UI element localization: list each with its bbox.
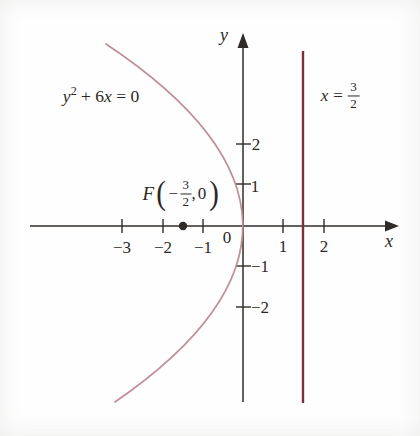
focus-fraction-denominator: 2 (182, 195, 189, 210)
x-tick-label-1: 1 (279, 238, 288, 255)
x-axis-label: x (385, 232, 393, 250)
focus-close-paren: ) (209, 180, 219, 209)
directrix-var: x (321, 88, 329, 105)
x-tick-label-neg2: −2 (154, 239, 172, 256)
x-tick-label-2: 2 (320, 238, 329, 255)
x-tick-label-neg3: −3 (113, 239, 131, 256)
figure-canvas: y x 0 −3 −2 −1 1 2 2 1 −1 −2 y2 + 6x = 0… (0, 0, 420, 436)
y-tick-label-neg2: −2 (251, 299, 269, 316)
directrix-fraction-numerator: 3 (348, 80, 360, 96)
directrix-fraction: 3 2 (348, 80, 360, 111)
focus-separator: , (191, 186, 195, 203)
parabola-equation-label: y2 + 6x = 0 (63, 88, 139, 106)
y-tick-label-2: 2 (252, 136, 261, 153)
equation-mid: + 6 (77, 86, 104, 106)
focus-open-paren: ( (156, 180, 166, 209)
y-tick-label-neg1: −1 (251, 258, 269, 275)
directrix-fraction-denominator: 2 (350, 97, 357, 112)
focus-fraction: 3 2 (180, 178, 192, 209)
focus-label: F ( − 3 2 , 0 ) (142, 178, 219, 209)
x-axis-arrow-icon (385, 221, 399, 232)
directrix-equals: = (333, 88, 343, 105)
focus-point-dot (179, 222, 187, 230)
focus-name: F (142, 185, 154, 204)
directrix-label: x = 3 2 (321, 80, 360, 111)
plot-svg (0, 0, 420, 436)
focus-minus-sign: − (168, 186, 178, 203)
equation-var-x: x (104, 86, 112, 106)
y-tick-label-1: 1 (251, 178, 260, 195)
equation-end: = 0 (112, 86, 139, 106)
focus-zero: 0 (198, 186, 207, 203)
x-tick-label-neg1: −1 (194, 239, 212, 256)
origin-label: 0 (223, 229, 232, 246)
y-axis-arrow-icon (238, 33, 249, 48)
focus-fraction-numerator: 3 (180, 178, 192, 194)
y-axis-label: y (220, 26, 228, 44)
equation-var-y: y (63, 86, 71, 106)
